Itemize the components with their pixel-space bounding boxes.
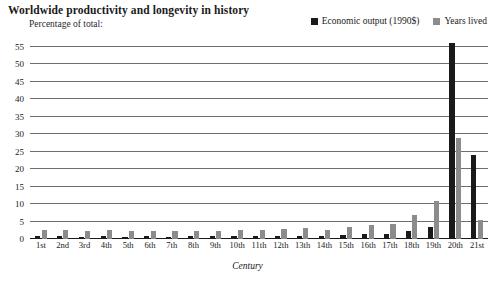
bar-group — [335, 40, 357, 239]
x-axis-tick-label: 9th — [210, 241, 221, 250]
legend-label: Years lived — [444, 17, 487, 27]
x-axis-tick-label: 10th — [230, 241, 245, 250]
x-axis-tick-label: 18th — [404, 241, 419, 250]
bar — [238, 230, 243, 239]
bar — [275, 236, 280, 239]
bar-group — [30, 40, 52, 239]
bar — [471, 155, 476, 239]
bar — [63, 230, 68, 239]
bar — [144, 236, 149, 239]
bar — [347, 227, 352, 239]
bar — [384, 234, 389, 239]
bar — [210, 236, 215, 239]
bar — [406, 231, 411, 239]
bar — [260, 230, 265, 239]
bar-group — [117, 40, 139, 239]
bar — [35, 236, 40, 239]
bar — [281, 229, 286, 239]
bar — [340, 235, 345, 239]
bar — [216, 231, 221, 239]
x-axis: 1st2nd3rd4th5th6th7th8th9th10th11th12th1… — [30, 241, 488, 255]
bar-group — [248, 40, 270, 239]
chart-container: Worldwide productivity and longevity in … — [0, 0, 495, 285]
bar — [122, 237, 127, 239]
chart-subtitle: Percentage of total: — [29, 19, 103, 29]
y-axis-tick-label: 5 — [20, 217, 25, 226]
y-axis-tick-label: 55 — [15, 42, 24, 51]
y-axis-tick-label: 15 — [15, 182, 24, 191]
bar — [369, 225, 374, 239]
bar-group — [74, 40, 96, 239]
bar — [412, 215, 417, 239]
x-axis-tick-label: 14th — [317, 241, 332, 250]
bar-group — [444, 40, 466, 239]
bar-group — [95, 40, 117, 239]
bar — [428, 227, 433, 239]
x-axis-tick-label: 7th — [166, 241, 177, 250]
y-axis-tick-label: 10 — [15, 200, 24, 209]
x-axis-tick-label: 5th — [123, 241, 134, 250]
y-axis-tick-label: 25 — [15, 147, 24, 156]
bar — [319, 236, 324, 239]
bar — [390, 224, 395, 239]
bar-group — [314, 40, 336, 239]
bar-group — [379, 40, 401, 239]
bar-group — [466, 40, 488, 239]
x-axis-tick-label: 8th — [188, 241, 199, 250]
x-axis-tick-label: 15th — [339, 241, 354, 250]
legend-label: Economic output (1990$) — [322, 17, 420, 27]
bar — [449, 43, 454, 239]
x-axis-tick-label: 11th — [252, 241, 267, 250]
y-axis-tick-label: 35 — [15, 112, 24, 121]
x-axis-tick-label: 2nd — [56, 241, 69, 250]
legend-entry: Economic output (1990$) — [311, 17, 420, 27]
x-axis-title: Century — [0, 261, 495, 271]
bar-group — [401, 40, 423, 239]
x-axis-tick-label: 13th — [295, 241, 310, 250]
x-axis-tick-label: 1st — [36, 241, 46, 250]
bar — [303, 228, 308, 239]
y-axis-tick-label: 40 — [15, 95, 24, 104]
y-axis-tick-label: 50 — [15, 60, 24, 69]
x-axis-tick-label: 3rd — [79, 241, 90, 250]
bar — [194, 231, 199, 239]
bar — [325, 230, 330, 239]
x-axis-tick-label: 4th — [101, 241, 112, 250]
bar — [456, 138, 461, 239]
bar — [478, 220, 483, 239]
bar — [129, 231, 134, 239]
bars-layer — [30, 40, 488, 239]
bar — [85, 231, 90, 239]
x-axis-tick-label: 12th — [273, 241, 288, 250]
bar-group — [292, 40, 314, 239]
bar — [107, 230, 112, 239]
bar — [151, 231, 156, 239]
bar — [434, 201, 439, 239]
bar — [188, 236, 193, 239]
chart-title: Worldwide productivity and longevity in … — [8, 4, 249, 16]
bar — [253, 236, 258, 239]
x-axis-tick-label: 19th — [426, 241, 441, 250]
plot-area — [30, 40, 488, 239]
bar-group — [52, 40, 74, 239]
bar-group — [270, 40, 292, 239]
bar-group — [161, 40, 183, 239]
bar-group — [357, 40, 379, 239]
y-axis-tick-label: 30 — [15, 130, 24, 139]
bar — [57, 236, 62, 239]
bar-group — [226, 40, 248, 239]
y-axis-tick-label: 45 — [15, 77, 24, 86]
bar-group — [139, 40, 161, 239]
chart-legend: Economic output (1990$)Years lived — [311, 17, 487, 27]
bar — [42, 230, 47, 239]
bar-group — [423, 40, 445, 239]
bar-group — [183, 40, 205, 239]
bar — [362, 234, 367, 239]
x-axis-tick-label: 17th — [382, 241, 397, 250]
x-axis-tick-label: 6th — [144, 241, 155, 250]
bar-group — [204, 40, 226, 239]
bar — [101, 236, 106, 239]
bar — [79, 237, 84, 239]
y-axis: 0510152025303540455055 — [0, 40, 27, 239]
bar — [231, 236, 236, 239]
